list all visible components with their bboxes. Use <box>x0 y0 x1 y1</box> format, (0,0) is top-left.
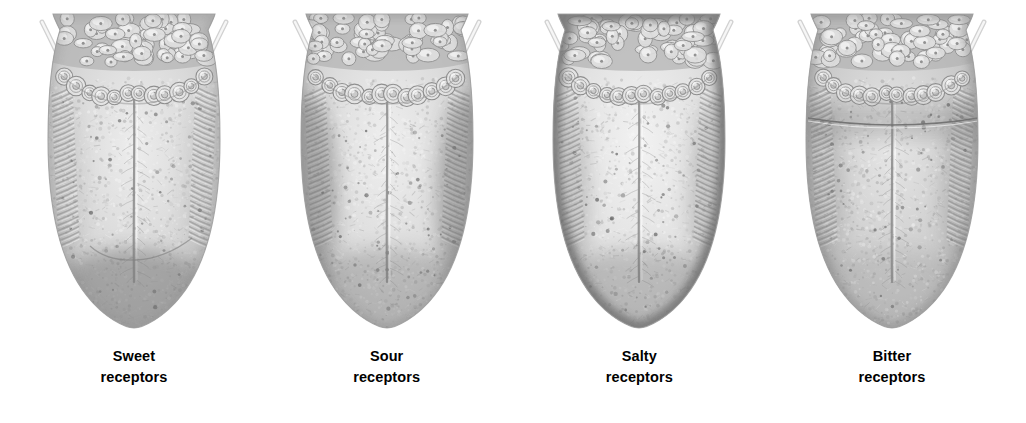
panel-salty: Salty receptors <box>521 0 757 388</box>
caption-line2: receptors <box>353 367 420 388</box>
panel-bitter: Bitter receptors <box>774 0 1010 388</box>
tongue-illustration-bitter <box>774 0 1010 340</box>
taste-receptor-figure: Sweet receptors Sour receptors Salty rec… <box>0 0 1026 423</box>
caption-bitter: Bitter receptors <box>858 346 925 388</box>
tongue-illustration-salty <box>521 0 757 340</box>
caption-line1: Sweet <box>113 348 155 364</box>
caption-sour: Sour receptors <box>353 346 420 388</box>
caption-line1: Sour <box>370 348 403 364</box>
caption-line1: Bitter <box>873 348 911 364</box>
caption-sweet: Sweet receptors <box>101 346 168 388</box>
tongue-illustration-sour <box>269 0 505 340</box>
tongue-illustration-sweet <box>16 0 252 340</box>
caption-salty: Salty receptors <box>606 346 673 388</box>
panel-sweet: Sweet receptors <box>16 0 252 388</box>
caption-line1: Salty <box>622 348 657 364</box>
caption-line2: receptors <box>858 367 925 388</box>
caption-line2: receptors <box>606 367 673 388</box>
panel-sour: Sour receptors <box>269 0 505 388</box>
caption-line2: receptors <box>101 367 168 388</box>
